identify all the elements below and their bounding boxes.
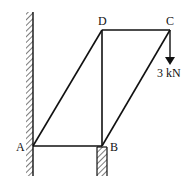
truss-diagram: D C A B 3 kN	[0, 0, 193, 184]
member-ad	[33, 30, 102, 146]
node-label-a: A	[16, 140, 25, 154]
wall-support	[26, 12, 33, 176]
load-label: 3 kN	[157, 66, 181, 80]
pier-support	[97, 147, 107, 176]
node-label-c: C	[166, 14, 174, 28]
member-cb	[102, 30, 170, 146]
node-label-b: B	[110, 140, 118, 154]
node-label-d: D	[98, 14, 107, 28]
